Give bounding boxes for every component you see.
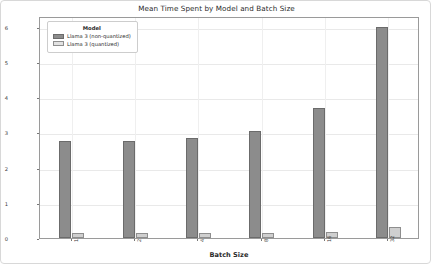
y-tick-mark [37,169,39,170]
y-tick-mark [37,239,39,240]
vertical-gridline [262,18,263,238]
x-tick-label: 2 [136,239,142,242]
bar [313,108,325,238]
bar [59,141,71,238]
x-tick-label: 4 [199,239,205,242]
bar [186,138,198,238]
gridline [40,205,418,206]
x-tick-mark [324,239,325,241]
gridline [40,134,418,135]
y-tick-label: 3 [0,130,8,136]
legend-swatch-icon [53,34,64,39]
x-tick-mark [134,239,135,241]
y-tick-mark [37,28,39,29]
x-tick-mark [197,239,198,241]
y-tick-label: 6 [0,25,8,31]
vertical-gridline [198,18,199,238]
chart-title: Mean Time Spent by Model and Batch Size [1,4,431,13]
bar [136,233,148,238]
chart-figure: Mean Time Spent by Model and Batch Size … [0,0,431,264]
y-tick-label: 0 [0,236,8,242]
x-tick-mark [261,239,262,241]
x-tick-label: 32 [389,236,395,242]
y-tick-label: 4 [0,95,8,101]
legend-item-label: Llama 3 (quantized) [67,41,119,47]
legend-title: Model [53,25,131,31]
legend-item-quantized[interactable]: Llama 3 (quantized) [53,41,131,47]
bar [199,233,211,238]
bar [262,233,274,238]
bar [249,131,261,238]
legend: Model Llama 3 (non-quantized) Llama 3 (q… [47,21,138,53]
y-tick-label: 5 [0,60,8,66]
gridline [40,170,418,171]
y-tick-label: 2 [0,166,8,172]
x-tick-label: 1 [73,239,79,242]
x-tick-mark [387,239,388,241]
bar [376,27,388,238]
x-tick-mark [71,239,72,241]
legend-item-label: Llama 3 (non-quantized) [67,33,131,39]
y-tick-label: 1 [0,201,8,207]
y-tick-mark [37,98,39,99]
bar [72,233,84,238]
legend-item-nonquantized[interactable]: Llama 3 (non-quantized) [53,33,131,39]
gridline [40,64,418,65]
y-tick-mark [37,133,39,134]
vertical-gridline [325,18,326,238]
y-tick-mark [37,204,39,205]
x-tick-label: 8 [263,239,269,242]
x-axis-label: Batch Size [39,251,419,259]
bar [123,141,135,238]
y-tick-mark [37,63,39,64]
vertical-gridline [388,18,389,238]
legend-swatch-icon [53,41,64,46]
gridline [40,99,418,100]
x-tick-label: 16 [326,236,332,242]
